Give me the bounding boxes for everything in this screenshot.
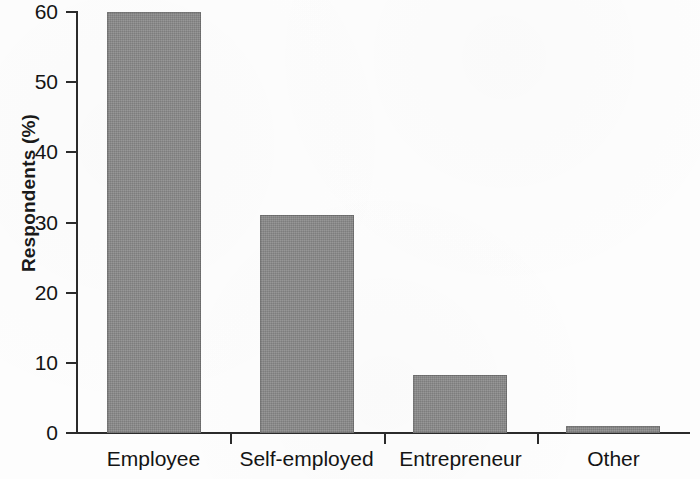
y-axis-tick-label: 60 (35, 1, 58, 22)
y-axis-tick-label: 50 (35, 71, 58, 92)
x-axis-tick-mark (384, 433, 386, 444)
x-axis-category-label: Employee (77, 447, 230, 471)
y-axis-tick-mark (66, 222, 77, 224)
y-axis-tick-label: 30 (35, 212, 58, 233)
bar-self-employed (260, 215, 354, 433)
y-axis-tick-label: 20 (35, 282, 58, 303)
x-axis-category-label: Entrepreneur (384, 447, 537, 471)
y-axis-tick-label: 40 (35, 141, 58, 162)
y-axis-tick-mark (66, 432, 77, 434)
y-axis-tick-mark (66, 11, 77, 13)
x-axis-category-label: Other (537, 447, 690, 471)
x-axis-category-label: Self-employed (230, 447, 383, 471)
bar-chart-figure: Respondents (%) 0102030405060 EmployeeSe… (0, 0, 700, 479)
y-axis-tick-label: 0 (46, 422, 58, 443)
y-axis-tick-mark (66, 292, 77, 294)
y-axis-tick-label: 10 (35, 352, 58, 373)
y-axis-tick-mark (66, 362, 77, 364)
bar-employee (107, 12, 201, 433)
y-axis-tick-mark (66, 151, 77, 153)
y-axis-tick-mark (66, 81, 77, 83)
x-axis-tick-mark (230, 433, 232, 444)
x-axis-tick-mark (537, 433, 539, 444)
bar-other (566, 426, 660, 433)
bar-entrepreneur (413, 375, 507, 433)
